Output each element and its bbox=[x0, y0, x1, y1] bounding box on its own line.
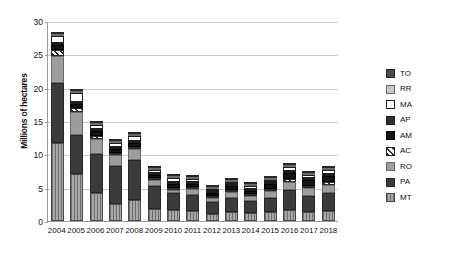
bar-segment-mt bbox=[128, 200, 141, 221]
x-axis-tick-label: 2010 bbox=[163, 226, 182, 235]
bar-column bbox=[241, 22, 260, 221]
bar-segment-pa bbox=[167, 193, 180, 210]
legend-label: PA bbox=[400, 178, 410, 186]
stacked-bar bbox=[206, 185, 219, 221]
y-axis-tick-label: 25 bbox=[34, 50, 43, 60]
legend-item-mt[interactable]: MT bbox=[386, 190, 446, 206]
bar-segment-mt bbox=[322, 211, 335, 221]
legend-item-ac[interactable]: AC bbox=[386, 144, 446, 160]
bar-segment-ma bbox=[51, 36, 64, 43]
bar-segment-ro bbox=[264, 191, 277, 198]
y-axis-title: Millions of hectares bbox=[19, 41, 29, 181]
legend-label: RO bbox=[400, 163, 412, 171]
x-axis-tick-label: 2015 bbox=[260, 226, 279, 235]
plot-area: 051015202530 bbox=[47, 22, 338, 222]
bar-segment-pa bbox=[302, 196, 315, 212]
legend-item-pa[interactable]: PA bbox=[386, 175, 446, 191]
bar-segment-ro bbox=[322, 185, 335, 193]
legend-swatch-to-icon bbox=[386, 69, 395, 78]
y-axis-tick-label: 10 bbox=[34, 150, 43, 160]
legend-item-to[interactable]: TO bbox=[386, 66, 446, 82]
bar-column bbox=[67, 22, 86, 221]
bar-column bbox=[87, 22, 106, 221]
stacked-bar bbox=[128, 132, 141, 221]
bar-segment-mt bbox=[186, 211, 199, 221]
legend: TORRMAAPAMACROPAMT bbox=[386, 66, 446, 206]
x-axis-tick-label: 2005 bbox=[66, 226, 85, 235]
legend-label: AC bbox=[400, 147, 411, 155]
bar-segment-pa bbox=[109, 166, 122, 203]
x-axis-tick-label: 2007 bbox=[105, 226, 124, 235]
stacked-bar bbox=[186, 175, 199, 221]
y-axis-tick-label: 0 bbox=[38, 217, 43, 227]
bar-segment-ro bbox=[51, 56, 64, 83]
x-axis-tick-label: 2009 bbox=[144, 226, 163, 235]
stacked-bar bbox=[322, 166, 335, 221]
bar-column bbox=[261, 22, 280, 221]
x-axis-tick-label: 2018 bbox=[319, 226, 338, 235]
legend-item-ap[interactable]: AP bbox=[386, 113, 446, 129]
bar-segment-mt bbox=[167, 210, 180, 221]
legend-swatch-am-icon bbox=[386, 131, 395, 140]
legend-label: MT bbox=[400, 194, 412, 202]
stacked-bar bbox=[90, 121, 103, 221]
bar-segment-pa bbox=[90, 154, 103, 193]
bar-column bbox=[183, 22, 202, 221]
bar-column bbox=[319, 22, 338, 221]
bar-column bbox=[222, 22, 241, 221]
y-axis-tick-label: 5 bbox=[38, 184, 43, 194]
x-axis-tick-label: 2006 bbox=[86, 226, 105, 235]
x-axis-tick-label: 2011 bbox=[183, 226, 202, 235]
legend-item-rr[interactable]: RR bbox=[386, 82, 446, 98]
bar-segment-pa bbox=[264, 198, 277, 212]
legend-item-am[interactable]: AM bbox=[386, 128, 446, 144]
bar-column bbox=[106, 22, 125, 221]
bar-segment-mt bbox=[148, 209, 161, 221]
bar-segment-mt bbox=[283, 210, 296, 221]
bar-segment-mt bbox=[302, 212, 315, 221]
bar-segment-mt bbox=[244, 213, 257, 221]
bar-segment-ro bbox=[283, 182, 296, 190]
bar-segment-pa bbox=[225, 198, 238, 212]
bar-segment-pa bbox=[283, 190, 296, 211]
x-axis-tick-label: 2016 bbox=[280, 226, 299, 235]
bar-column bbox=[145, 22, 164, 221]
bar-segment-mt bbox=[90, 193, 103, 221]
bar-segment-pa bbox=[322, 193, 335, 211]
stacked-bar bbox=[167, 174, 180, 221]
legend-item-ma[interactable]: MA bbox=[386, 97, 446, 113]
legend-swatch-ro-icon bbox=[386, 162, 395, 171]
bar-segment-ro bbox=[109, 155, 122, 166]
stacked-bar bbox=[283, 163, 296, 221]
bar-segment-pa bbox=[206, 202, 219, 213]
bar-segment-mt bbox=[70, 174, 83, 221]
bar-segment-ro bbox=[148, 180, 161, 187]
legend-label: RR bbox=[400, 85, 412, 93]
x-axis-tick-label: 2013 bbox=[222, 226, 241, 235]
legend-label: TO bbox=[400, 70, 411, 78]
bar-segment-mt bbox=[264, 212, 277, 221]
x-axis-tick-label: 2017 bbox=[299, 226, 318, 235]
stacked-bar bbox=[109, 139, 122, 221]
x-axis-tick-label: 2008 bbox=[125, 226, 144, 235]
legend-swatch-mt-icon bbox=[386, 193, 395, 202]
bar-segment-ma bbox=[70, 93, 83, 102]
stacked-bar bbox=[70, 89, 83, 221]
legend-label: AP bbox=[400, 116, 411, 124]
bar-segment-mt bbox=[51, 143, 64, 221]
stacked-bar bbox=[225, 178, 238, 221]
bar-segment-mt bbox=[206, 214, 219, 221]
legend-label: MA bbox=[400, 101, 412, 109]
bar-segment-pa bbox=[128, 160, 141, 201]
bar-group bbox=[48, 22, 338, 221]
legend-item-ro[interactable]: RO bbox=[386, 159, 446, 175]
bar-segment-am bbox=[322, 176, 335, 183]
bar-segment-pa bbox=[51, 83, 64, 143]
x-axis-tick-label: 2014 bbox=[241, 226, 260, 235]
stacked-bar bbox=[148, 166, 161, 221]
x-axis-tick-label: 2004 bbox=[47, 226, 66, 235]
bar-column bbox=[299, 22, 318, 221]
legend-swatch-ac-icon bbox=[386, 147, 395, 156]
bar-segment-mt bbox=[109, 204, 122, 221]
bar-column bbox=[48, 22, 67, 221]
